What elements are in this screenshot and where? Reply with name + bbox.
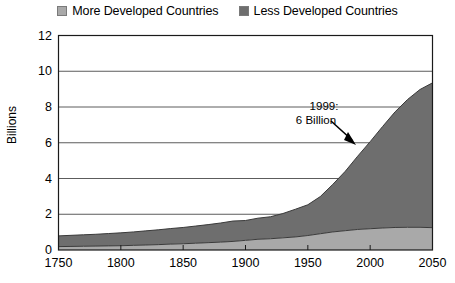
x-tick-label-2050: 2050	[410, 257, 455, 269]
y-tick-label-10: 10	[22, 65, 52, 77]
y-tick-label-12: 12	[22, 30, 52, 42]
x-tick-label-1900: 1900	[223, 257, 269, 269]
y-tick-label-8: 8	[22, 101, 52, 113]
x-tick-label-1800: 1800	[98, 257, 144, 269]
annotation-line-1: 1999:	[289, 100, 359, 113]
x-tick-label-2000: 2000	[347, 257, 393, 269]
annotation-line-2: 6 Billion	[281, 114, 351, 127]
y-tick-label-2: 2	[22, 208, 52, 220]
plot-area: Billions 024681012 175018001850190019502…	[0, 0, 455, 283]
chart-svg	[0, 0, 455, 283]
y-tick-label-0: 0	[22, 244, 52, 256]
chart-screenshot: More Developed Countries Less Developed …	[0, 0, 455, 283]
y-tick-label-4: 4	[22, 173, 52, 185]
x-tick-label-1750: 1750	[36, 257, 82, 269]
x-tick-label-1950: 1950	[285, 257, 331, 269]
y-axis-label: Billions	[5, 95, 19, 155]
x-tick-label-1850: 1850	[160, 257, 206, 269]
y-tick-label-6: 6	[22, 137, 52, 149]
